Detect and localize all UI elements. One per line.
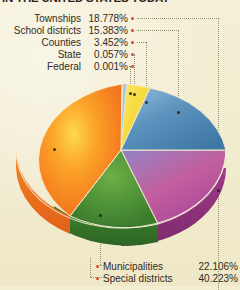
callout-federal-marker-dot <box>131 65 134 68</box>
callout-school-districts-label: School districts <box>14 25 81 36</box>
leader-line-counties-h <box>137 42 146 43</box>
pie-chart[interactable] <box>10 84 232 254</box>
callout-label-list: Townships 18.778% School districts 15.38… <box>0 12 134 72</box>
callout-municipalities[interactable]: Municipalities 22.106% <box>96 260 240 272</box>
callout-counties[interactable]: Counties 3.452% <box>0 36 134 48</box>
pie-chart-svg <box>10 84 232 254</box>
callout-special-districts-value: 40.223% <box>199 273 240 284</box>
callout-counties-value: 3.452% <box>81 37 128 48</box>
callout-federal-label: Federal <box>47 61 81 72</box>
leader-line-school-h <box>137 30 179 31</box>
callout-townships-label: Townships <box>34 13 81 24</box>
callout-townships[interactable]: Townships 18.778% <box>0 12 134 24</box>
callout-school-districts-value: 15.383% <box>81 25 128 36</box>
callout-counties-marker-dot <box>131 41 134 44</box>
bottom-callout-list: Municipalities 22.106% Special districts… <box>96 260 240 284</box>
callout-special-districts-label: Special districts <box>103 273 172 284</box>
callout-special-districts-marker-dot <box>96 277 99 280</box>
callout-municipalities-value: 22.106% <box>199 261 240 272</box>
pie-marker-school <box>177 111 180 114</box>
callout-school-districts-marker-dot <box>131 29 134 32</box>
pie-marker-counties <box>145 101 148 104</box>
page-title: IN THE UNITED STATES TODAY <box>2 0 202 5</box>
callout-federal[interactable]: Federal 0.001% <box>0 60 134 72</box>
pie-marker-state <box>133 93 136 96</box>
callout-townships-value: 18.778% <box>81 13 128 24</box>
chart-title-container: IN THE UNITED STATES TODAY <box>2 0 202 9</box>
callout-municipalities-marker-dot <box>96 265 99 268</box>
callout-state-value: 0.057% <box>81 49 128 60</box>
callout-school-districts[interactable]: School districts 15.383% <box>0 24 134 36</box>
leader-line-special-v <box>90 258 91 277</box>
pie-marker-municipalities <box>99 214 102 217</box>
callout-state[interactable]: State 0.057% <box>0 48 134 60</box>
pie-marker-townships <box>53 148 56 151</box>
leader-line-townships-h <box>137 18 219 19</box>
callout-townships-marker-dot <box>131 17 134 20</box>
callout-state-marker-dot <box>131 53 134 56</box>
callout-special-districts[interactable]: Special districts 40.223% <box>96 272 240 284</box>
pie-marker-federal <box>129 92 132 95</box>
callout-counties-label: Counties <box>42 37 81 48</box>
callout-state-label: State <box>58 49 81 60</box>
callout-federal-value: 0.001% <box>81 61 128 72</box>
callout-municipalities-label: Municipalities <box>103 261 163 272</box>
pie-marker-special <box>217 189 220 192</box>
